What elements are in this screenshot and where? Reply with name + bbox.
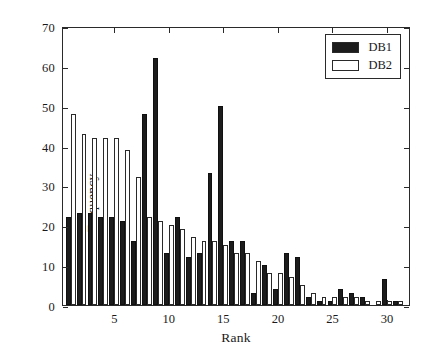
y-tick-mark-right	[404, 148, 409, 149]
bar-db2	[322, 297, 327, 305]
y-tick-mark-right	[404, 307, 409, 308]
bar-db2	[289, 277, 294, 305]
y-tick-mark	[63, 187, 68, 188]
legend-swatch-db1	[332, 42, 359, 53]
bar-db2	[343, 297, 348, 305]
x-tick-mark	[278, 300, 279, 305]
y-tick-mark-right	[404, 227, 409, 228]
bar-db2	[267, 273, 272, 305]
bar-db2	[180, 229, 185, 305]
frequency-rank-bar-chart: Frequency 010203040506070 51015202530 DB…	[0, 0, 429, 358]
y-tick-label: 0	[49, 300, 55, 315]
x-tick-mark-top	[223, 28, 224, 33]
x-tick-label: 5	[111, 312, 117, 327]
bar-db2	[82, 134, 87, 305]
x-tick-mark-top	[169, 28, 170, 33]
x-tick-label: 20	[272, 312, 285, 327]
x-tick-mark-top	[387, 28, 388, 33]
x-axis-title: Rank	[62, 330, 410, 346]
bar-db2	[191, 237, 196, 305]
bar-db2	[234, 253, 239, 305]
y-tick-mark	[63, 267, 68, 268]
bar-db2	[354, 297, 359, 305]
x-tick-mark	[169, 300, 170, 305]
bar-db2	[114, 138, 119, 305]
y-tick-mark	[63, 307, 68, 308]
x-tick-mark-top	[278, 28, 279, 33]
bar-db2	[92, 138, 97, 305]
x-tick-label: 30	[381, 312, 394, 327]
legend-label-db2: DB2	[368, 59, 392, 72]
x-tick-label: 25	[326, 312, 339, 327]
x-tick-mark	[223, 300, 224, 305]
bar-db2	[103, 138, 108, 305]
x-tick-mark-top	[332, 28, 333, 33]
y-tick-label: 20	[42, 220, 55, 235]
y-tick-mark	[63, 148, 68, 149]
bar-db2	[376, 301, 381, 305]
legend-item-db1: DB1	[332, 40, 392, 55]
bar-db2	[300, 285, 305, 305]
legend-swatch-db2	[332, 60, 359, 71]
y-tick-label: 40	[42, 140, 55, 155]
bar-db2	[223, 245, 228, 305]
y-tick-mark-right	[404, 68, 409, 69]
legend-item-db2: DB2	[332, 58, 392, 73]
y-tick-label: 30	[42, 180, 55, 195]
x-tick-label: 15	[217, 312, 230, 327]
y-tick-mark-right	[404, 28, 409, 29]
y-tick-label: 60	[42, 60, 55, 75]
bar-db2	[147, 217, 152, 305]
y-tick-mark	[63, 28, 68, 29]
bar-db2	[202, 241, 207, 305]
x-tick-mark	[114, 300, 115, 305]
bar-db2	[71, 114, 76, 305]
x-tick-mark	[387, 300, 388, 305]
bar-db2	[365, 301, 370, 305]
y-tick-mark-right	[404, 267, 409, 268]
bar-db2	[125, 150, 130, 305]
legend-label-db1: DB1	[368, 41, 392, 54]
y-tick-label: 10	[42, 260, 55, 275]
y-tick-mark	[63, 227, 68, 228]
y-tick-label: 50	[42, 100, 55, 115]
y-tick-mark-right	[404, 108, 409, 109]
bar-db2	[158, 221, 163, 305]
y-tick-mark	[63, 108, 68, 109]
bar-db2	[136, 177, 141, 305]
y-tick-label: 70	[42, 21, 55, 36]
bar-db2	[245, 253, 250, 305]
bar-db2	[398, 301, 403, 305]
bar-db2	[169, 225, 174, 305]
x-tick-mark-top	[114, 28, 115, 33]
bar-db2	[212, 241, 217, 305]
plot-frame: Frequency 010203040506070 51015202530 DB…	[62, 27, 410, 306]
bar-db2	[256, 261, 261, 305]
y-tick-mark-right	[404, 187, 409, 188]
y-tick-mark	[63, 68, 68, 69]
bar-db2	[311, 293, 316, 305]
x-tick-mark	[332, 300, 333, 305]
chart-legend: DB1 DB2	[325, 34, 401, 79]
x-tick-label: 10	[163, 312, 176, 327]
